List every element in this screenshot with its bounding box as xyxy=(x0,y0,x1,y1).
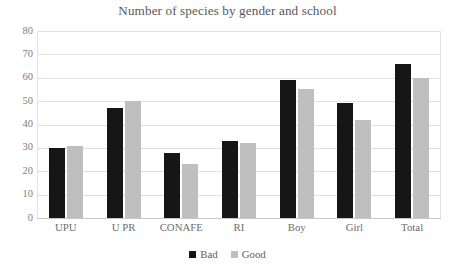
bar-good-total xyxy=(413,78,429,218)
x-axis-tick-label: RI xyxy=(210,221,268,233)
bar-group xyxy=(383,31,441,218)
bar-group xyxy=(37,31,95,218)
y-axis-tick-label: 10 xyxy=(3,189,33,200)
legend-label: Good xyxy=(242,249,266,260)
bar-good-girl xyxy=(355,120,371,218)
legend-item-good[interactable]: Good xyxy=(231,249,266,260)
bar-good-upu xyxy=(67,146,83,218)
y-axis-tick-label: 20 xyxy=(3,166,33,177)
bars-layer xyxy=(37,31,441,218)
legend-swatch-icon xyxy=(189,251,196,258)
y-axis-tick-label: 50 xyxy=(3,96,33,107)
x-axis-tick-label: Girl xyxy=(326,221,384,233)
bar-bad-u-pr xyxy=(107,108,123,218)
y-axis-tick-label: 80 xyxy=(3,26,33,37)
bar-bad-boy xyxy=(280,80,296,218)
y-axis: 80706050403020100 xyxy=(0,31,33,219)
bar-good-u-pr xyxy=(125,101,141,218)
x-axis-tick-label: U PR xyxy=(95,221,153,233)
bar-group xyxy=(210,31,268,218)
legend-swatch-icon xyxy=(231,251,238,258)
x-axis-tick-label: UPU xyxy=(37,221,95,233)
bar-bad-ri xyxy=(222,141,238,218)
y-axis-tick-label: 30 xyxy=(3,142,33,153)
y-axis-tick-label: 40 xyxy=(3,119,33,130)
x-axis-tick-label: Total xyxy=(383,221,441,233)
x-axis-tick-label: CONAFE xyxy=(152,221,210,233)
bar-bad-upu xyxy=(49,148,65,218)
bar-group xyxy=(268,31,326,218)
bar-good-conafe xyxy=(182,164,198,218)
y-axis-tick-label: 70 xyxy=(3,49,33,60)
x-axis-tick-label: Boy xyxy=(268,221,326,233)
bar-good-ri xyxy=(240,143,256,218)
legend-label: Bad xyxy=(200,249,217,260)
x-axis: UPUU PRCONAFERIBoyGirlTotal xyxy=(37,221,441,239)
bar-chart: Number of species by gender and school 8… xyxy=(0,0,455,272)
bar-group xyxy=(326,31,384,218)
bar-bad-total xyxy=(395,64,411,218)
bar-bad-conafe xyxy=(164,153,180,218)
y-axis-tick-label: 0 xyxy=(3,213,33,224)
bar-bad-girl xyxy=(337,103,353,218)
x-axis-line xyxy=(37,218,441,219)
bar-group xyxy=(152,31,210,218)
bar-good-boy xyxy=(298,89,314,218)
bar-group xyxy=(95,31,153,218)
chart-legend: BadGood xyxy=(0,249,455,260)
y-axis-tick-label: 60 xyxy=(3,72,33,83)
chart-title: Number of species by gender and school xyxy=(0,3,455,19)
legend-item-bad[interactable]: Bad xyxy=(189,249,217,260)
